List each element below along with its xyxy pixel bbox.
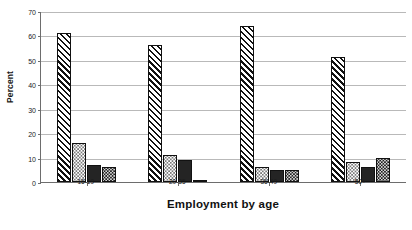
bar-group [132, 12, 223, 182]
y-axis-tick-label: 70 [28, 9, 36, 16]
y-axis-tick-label: 0 [32, 180, 36, 187]
bar [148, 45, 162, 182]
y-axis-tick-label: 10 [28, 155, 36, 162]
x-axis-tick-label: 20-35 [169, 178, 186, 185]
y-axis-tick-label: 30 [28, 106, 36, 113]
bar-chart: Percent 010203040506070 16-1920-3536-495… [0, 0, 412, 230]
bar-group [224, 12, 315, 182]
bar [193, 180, 207, 182]
y-axis-tick-label: 40 [28, 82, 36, 89]
x-axis-tick-label: 36-49 [260, 178, 277, 185]
x-axis-title: Employment by age [40, 198, 406, 210]
y-axis-title: Percent [5, 51, 15, 123]
bar [240, 26, 254, 182]
y-axis-tick-label: 50 [28, 57, 36, 64]
y-axis-tick-mark [38, 183, 41, 184]
bar [57, 33, 71, 182]
bar-group [41, 12, 132, 182]
bar [331, 57, 345, 182]
bar [285, 170, 299, 182]
bar-group [315, 12, 406, 182]
bar [376, 158, 390, 182]
bar [72, 143, 86, 182]
x-axis-tick-label: 50+ [355, 178, 366, 185]
bar-groups [41, 12, 406, 182]
plot-area: 010203040506070 [40, 12, 406, 183]
bar [102, 167, 116, 182]
x-axis-tick-label: 16-19 [77, 178, 94, 185]
y-axis-tick-label: 20 [28, 131, 36, 138]
y-axis-tick-label: 60 [28, 33, 36, 40]
